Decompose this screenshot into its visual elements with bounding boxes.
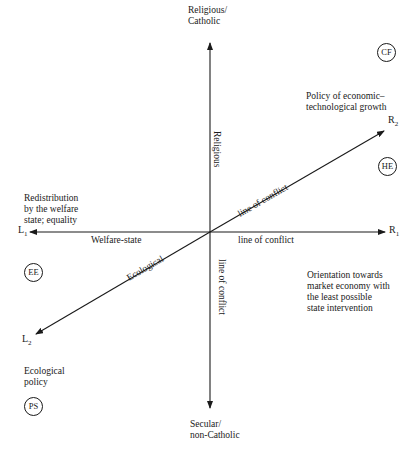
cleavage-diagram: Religious/ Catholic Secular/ non-Catholi…: [0, 0, 417, 463]
party-marker-he: HE: [378, 157, 397, 176]
diagonal-axis-down: [36, 232, 210, 334]
religious-caption: Religious: [212, 131, 222, 167]
market-orientation-label: Orientation towards market economy with …: [307, 270, 390, 314]
growth-policy-label: Policy of economic– technological growth: [306, 91, 386, 113]
vertical-conflict-caption: line of conflict: [217, 259, 227, 315]
horizontal-conflict-caption: line of conflict: [238, 235, 294, 246]
redistribution-label: Redistribution by the welfare state; equ…: [24, 193, 78, 226]
axes-svg: [0, 0, 417, 463]
axis-label-R1: R1: [389, 224, 399, 238]
top-pole-label: Religious/ Catholic: [188, 5, 227, 27]
ecological-policy-label: Ecological policy: [24, 366, 65, 388]
welfare-state-caption: Welfare-state: [91, 235, 141, 246]
party-marker-ee: EE: [24, 263, 43, 282]
party-marker-cf: CF: [377, 43, 396, 62]
bottom-pole-label: Secular/ non-Catholic: [190, 419, 240, 441]
diagonal-axis-up: [210, 131, 384, 232]
party-marker-ps: PS: [24, 397, 43, 416]
axis-label-L1: L1: [18, 224, 28, 238]
axis-label-L2: L2: [22, 333, 32, 347]
axis-label-R2: R2: [388, 114, 398, 128]
